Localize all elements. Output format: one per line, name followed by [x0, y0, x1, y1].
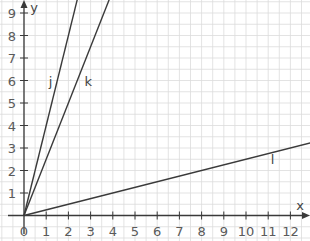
x-axis-label: x [296, 198, 304, 213]
x-tick-label: 2 [64, 224, 72, 239]
x-tick-label: 5 [131, 224, 139, 239]
x-tick-label: 1 [42, 224, 50, 239]
data-lines [24, 0, 310, 216]
grid [0, 0, 310, 241]
x-tick-label: 4 [109, 224, 117, 239]
x-tick-label: 3 [86, 224, 94, 239]
line-label-j: j [48, 74, 53, 89]
y-tick-label: 7 [8, 51, 16, 66]
y-axis-arrow-icon [21, 0, 28, 8]
x-tick-label: 7 [175, 224, 183, 239]
line-j [24, 0, 77, 216]
line-label-k: k [85, 74, 93, 89]
y-tick-label: 3 [8, 141, 16, 156]
y-tick-label: 9 [8, 6, 16, 21]
x-tick-label: 10 [238, 224, 255, 239]
chart: 0123456789101112123456789 jklxy [0, 0, 310, 241]
line-k [24, 0, 109, 216]
x-tick-label: 11 [260, 224, 277, 239]
y-axis-label: y [30, 0, 38, 15]
x-tick-label: 12 [282, 224, 299, 239]
x-tick-label: 8 [197, 224, 205, 239]
labels: jklxy [30, 0, 304, 213]
x-tick-label: 6 [153, 224, 161, 239]
y-tick-label: 5 [8, 96, 16, 111]
y-tick-label: 6 [8, 74, 16, 89]
x-axis-arrow-icon [302, 212, 310, 219]
x-tick-label: 9 [220, 224, 228, 239]
y-tick-label: 2 [8, 164, 16, 179]
y-tick-label: 8 [8, 29, 16, 44]
line-label-l: l [271, 152, 275, 167]
x-tick-label: 0 [20, 224, 28, 239]
y-tick-label: 1 [8, 186, 16, 201]
y-tick-label: 4 [8, 119, 16, 134]
